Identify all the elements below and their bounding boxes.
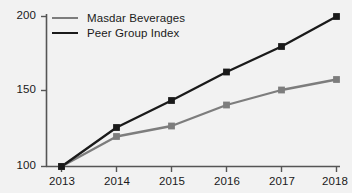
data-point-2017 — [278, 87, 285, 94]
data-point-2015 — [168, 97, 175, 104]
data-point-2016 — [223, 69, 230, 76]
data-point-2013 — [58, 163, 65, 170]
legend-line-swatch-peer-group-index — [52, 32, 78, 34]
data-point-2017 — [278, 43, 285, 50]
series-line-masdar-beverages — [62, 80, 337, 167]
legend-label-peer-group-index: Peer Group Index — [87, 27, 179, 39]
data-point-2014 — [113, 124, 120, 131]
legend-item-peer-group-index: Peer Group Index — [52, 25, 185, 40]
legend-label-masdar-beverages: Masdar Beverages — [87, 12, 185, 24]
series-markers-masdar-beverages — [58, 76, 340, 170]
chart-legend: Masdar Beverages Peer Group Index — [52, 10, 185, 40]
data-point-2015 — [168, 123, 175, 130]
y-axis-tick-label-100: 100 — [6, 159, 36, 171]
y-axis-tick-label-200: 200 — [6, 9, 36, 21]
x-axis-tick-label-2018: 2018 — [315, 175, 352, 187]
data-point-2016 — [223, 102, 230, 109]
x-axis-tick-label-2017: 2017 — [262, 175, 302, 187]
y-axis-tick-label-150: 150 — [6, 83, 36, 95]
legend-line-swatch-masdar-beverages — [52, 17, 78, 19]
legend-item-masdar-beverages: Masdar Beverages — [52, 10, 185, 25]
x-axis-tick-label-2016: 2016 — [207, 175, 247, 187]
x-axis-tick-label-2013: 2013 — [42, 175, 82, 187]
x-axis-tick-label-2015: 2015 — [152, 175, 192, 187]
data-point-2018 — [333, 76, 340, 83]
data-point-2018 — [333, 13, 340, 20]
x-axis-tick-label-2014: 2014 — [97, 175, 137, 187]
data-point-2014 — [113, 133, 120, 140]
